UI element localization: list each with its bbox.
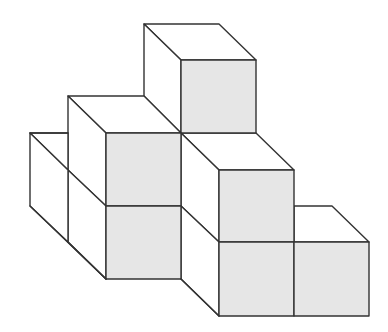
bottom-right-front-face xyxy=(294,242,369,316)
bottom-middle-front-face xyxy=(219,242,294,316)
cube-stack-diagram xyxy=(0,0,388,332)
lower-left-front-face xyxy=(106,206,181,279)
top-cube-front-face xyxy=(181,60,256,133)
upper-left-front-face xyxy=(106,133,181,206)
bottom-right-cube-top-face xyxy=(294,206,369,242)
cube-stack-svg xyxy=(0,0,388,332)
middle-right-front-face xyxy=(219,170,294,242)
